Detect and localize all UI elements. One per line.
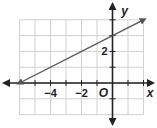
labels: −4−22Oxy xyxy=(44,4,154,100)
y-tick-label: 2 xyxy=(101,45,107,57)
y-axis-label: y xyxy=(120,4,129,18)
grid xyxy=(20,20,144,115)
x-tick-label: −2 xyxy=(75,87,88,99)
x-axis-label: x xyxy=(146,86,155,100)
x-tick-label: −4 xyxy=(44,87,57,99)
origin-label: O xyxy=(99,86,109,100)
coordinate-plane: −4−22Oxy xyxy=(0,0,157,128)
axes xyxy=(6,6,151,122)
